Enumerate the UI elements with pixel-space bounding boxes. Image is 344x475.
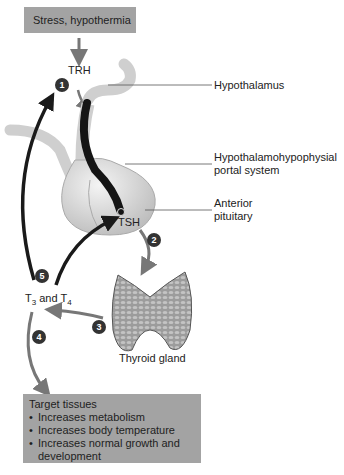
thyroid-gland-label: Thyroid gland bbox=[119, 352, 186, 365]
trh-label: TRH bbox=[68, 64, 91, 77]
anterior-pituitary-label: Anterior pituitary bbox=[214, 197, 253, 223]
step-1-badge: 1 bbox=[55, 78, 69, 92]
step-5-badge: 5 bbox=[35, 269, 49, 283]
stimulus-box: Stress, hypothermia bbox=[24, 7, 136, 33]
portal-system-label: Hypothalamohypophysial portal system bbox=[214, 151, 337, 177]
step-4-badge: 4 bbox=[32, 330, 46, 344]
effect-item: Increases body temperature bbox=[29, 424, 201, 437]
hypothalamus-label: Hypothalamus bbox=[214, 79, 284, 92]
tsh-label: TSH bbox=[118, 216, 140, 229]
effects-list: Increases metabolism Increases body temp… bbox=[29, 411, 201, 463]
effect-item: Increases metabolism bbox=[29, 411, 201, 424]
t3-t4-label: T3 and T4 bbox=[25, 292, 72, 309]
step-2-badge: 2 bbox=[147, 233, 161, 247]
target-tissues-box: Target tissues Increases metabolism Incr… bbox=[23, 394, 201, 463]
effect-item: Increases normal growth and development bbox=[29, 437, 201, 463]
target-tissues-title: Target tissues bbox=[29, 398, 201, 411]
stimulus-text: Stress, hypothermia bbox=[24, 7, 136, 33]
step-3-badge: 3 bbox=[92, 320, 106, 334]
